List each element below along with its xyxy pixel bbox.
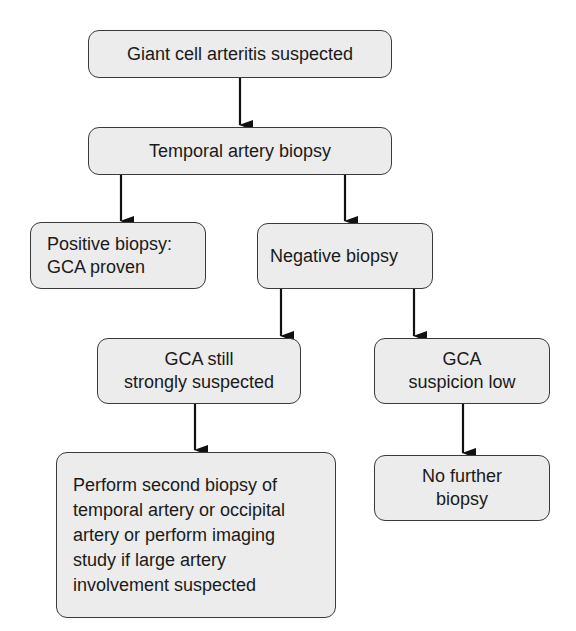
node-second-biopsy: Perform second biopsy of temporal artery… [56, 452, 336, 618]
node-label: Perform second biopsy of temporal artery… [73, 473, 285, 598]
node-gca-suspected: Giant cell arteritis suspected [88, 30, 392, 78]
node-label: Temporal artery biopsy [149, 140, 331, 163]
node-label: Giant cell arteritis suspected [127, 43, 353, 66]
node-label: GCA still strongly suspected [124, 348, 274, 394]
node-label: Negative biopsy [270, 245, 398, 268]
node-gca-suspicion-low: GCA suspicion low [374, 338, 550, 404]
node-negative-biopsy: Negative biopsy [257, 223, 433, 289]
node-label: Positive biopsy: GCA proven [47, 233, 172, 279]
node-positive-biopsy: Positive biopsy: GCA proven [30, 222, 206, 289]
node-no-further-biopsy: No further biopsy [374, 455, 550, 521]
node-gca-still-suspected: GCA still strongly suspected [97, 338, 301, 404]
node-label: No further biopsy [422, 465, 502, 511]
node-label: GCA suspicion low [408, 348, 515, 394]
node-temporal-artery-biopsy: Temporal artery biopsy [88, 127, 392, 175]
